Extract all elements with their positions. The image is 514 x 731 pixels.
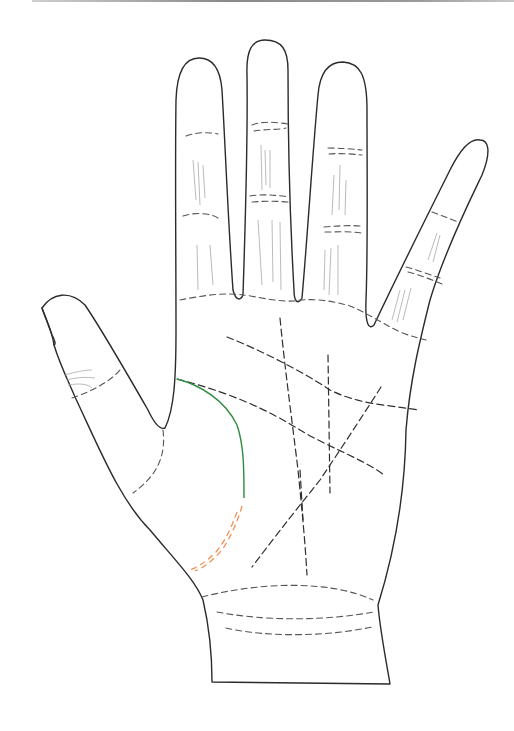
ring-upper-crease (328, 148, 362, 155)
sun-line (328, 355, 330, 493)
venus-girdle-curve (133, 430, 164, 493)
hand-outline (42, 40, 488, 684)
little-lower-crease (406, 267, 442, 284)
middle-lower-crease (250, 195, 290, 202)
index-upper-crease (186, 133, 218, 136)
little-fine-lines (392, 233, 440, 322)
little-upper-crease (432, 212, 458, 222)
index-fine-lines (193, 160, 213, 290)
heart-line (227, 337, 418, 410)
finger-base-crease (180, 294, 426, 340)
middle-fine-lines (258, 145, 281, 290)
fate-line (280, 318, 307, 575)
ring-lower-crease (324, 226, 361, 233)
palm-diagram (0, 0, 514, 731)
wrist-bracelet-1 (202, 585, 373, 600)
life-line-broken-segment (190, 506, 242, 571)
ring-fine-lines (324, 165, 346, 295)
wrist-bracelet-2 (217, 612, 374, 619)
middle-upper-crease (252, 122, 288, 131)
index-lower-crease (183, 214, 218, 218)
wrist-bracelet-3 (226, 627, 372, 635)
